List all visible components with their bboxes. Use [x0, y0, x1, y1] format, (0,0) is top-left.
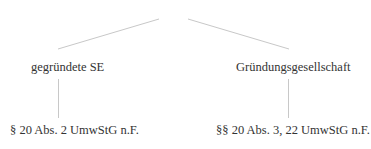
- node-gegruendete-se: gegründete SE: [31, 60, 104, 74]
- node-paragraph-20-abs-2: § 20 Abs. 2 UmwStG n.F.: [10, 123, 139, 137]
- edge-root-right: [188, 19, 289, 49]
- node-paragraph-20-abs-3-22: §§ 20 Abs. 3, 22 UmwStG n.F.: [216, 123, 370, 137]
- edge-root-left: [58, 19, 159, 49]
- node-gruendungsgesellschaft: Gründungsgesellschaft: [236, 60, 351, 74]
